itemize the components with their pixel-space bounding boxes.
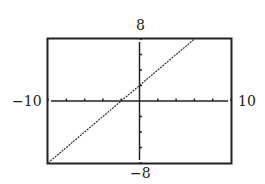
plot-area <box>0 0 265 184</box>
axes <box>48 39 231 163</box>
